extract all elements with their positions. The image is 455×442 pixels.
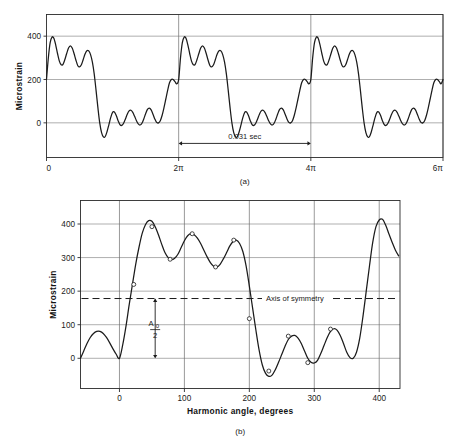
x-tick-label-b-4: 400 [372, 394, 386, 403]
figure-svg: 020040002π4π6πMicrostrain0.031 sec(a)Axi… [0, 0, 455, 442]
x-tick-label-a-3: 6π [433, 164, 444, 173]
figure-container: 020040002π4π6πMicrostrain0.031 sec(a)Axi… [0, 0, 455, 442]
period-arrow-left-head [179, 141, 182, 145]
x-tick-label-a-1: 2π [174, 164, 185, 173]
panel-b-caption: (b) [235, 427, 245, 436]
panel-b: Axis of symmetryA02010020030040001002003… [48, 201, 400, 437]
y-axis-title-a: Microstrain [14, 62, 24, 110]
data-point-marker [132, 282, 136, 286]
y-tick-label-a-0: 0 [36, 119, 41, 128]
x-tick-label-a-2: 4π [306, 164, 317, 173]
data-point-marker [214, 265, 218, 269]
x-tick-label-b-3: 300 [307, 394, 321, 403]
period-arrow-right-head [307, 141, 310, 145]
data-point-marker [286, 334, 290, 338]
a0-denominator-label: 2 [153, 331, 157, 340]
waveform-curve-a [47, 37, 444, 138]
data-point-marker [232, 238, 236, 242]
x-axis-title-b: Harmonic angle, degrees [187, 406, 294, 416]
y-tick-label-a-1: 200 [27, 76, 41, 85]
panel-a-caption: (a) [240, 177, 250, 186]
x-tick-label-a-0: 0 [47, 164, 52, 173]
x-tick-label-b-0: 0 [117, 394, 122, 403]
a0-numerator-label: A [149, 319, 155, 328]
y-axis-title-b: Microstrain [48, 270, 58, 318]
y-tick-label-b-0: 0 [70, 354, 75, 363]
plot-frame-b [81, 201, 401, 389]
data-point-marker [267, 369, 271, 373]
x-tick-label-b-1: 100 [178, 394, 192, 403]
y-tick-label-b-3: 300 [61, 254, 75, 263]
data-point-marker [306, 361, 310, 365]
a0-subscript-label: 0 [156, 323, 160, 329]
y-tick-label-b-4: 400 [61, 220, 75, 229]
data-point-marker [247, 317, 251, 321]
panel-a: 020040002π4π6πMicrostrain0.031 sec(a) [14, 15, 443, 187]
axis-of-symmetry-label: Axis of symmetry [266, 294, 324, 303]
x-tick-label-b-2: 200 [243, 394, 257, 403]
y-tick-label-a-2: 400 [27, 32, 41, 41]
y-tick-label-b-2: 200 [61, 287, 75, 296]
a0-arrow-down-head [153, 355, 157, 358]
data-point-marker [168, 257, 172, 261]
data-point-marker [150, 225, 154, 229]
data-point-marker [190, 232, 194, 236]
y-tick-label-b-1: 100 [61, 321, 75, 330]
a0-arrow-up-head [153, 299, 157, 302]
period-annotation-label: 0.031 sec [228, 132, 261, 141]
waveform-curve-b [81, 219, 399, 377]
data-point-marker [329, 327, 333, 331]
